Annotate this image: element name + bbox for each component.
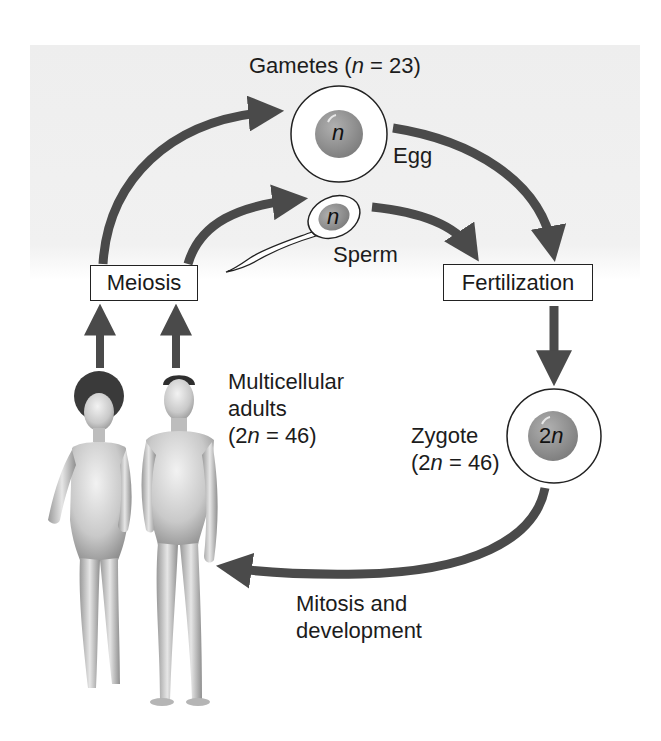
egg-nucleus-label: n <box>332 120 344 146</box>
zygote-label-line2: (2n = 46) <box>411 449 500 476</box>
life-cycle-diagram: Gametes (n = 23) n Egg n Sperm Meiosis F… <box>0 0 661 741</box>
gametes-label: Gametes (n = 23) <box>249 53 421 78</box>
adults-label-line1: Multicellular <box>228 368 344 395</box>
sperm-nucleus-label: n <box>327 204 339 230</box>
zygote-label: Zygote (2n = 46) <box>411 422 500 476</box>
mitosis-label-line1: Mitosis and <box>296 590 422 617</box>
adults-label-line2: adults <box>228 395 344 422</box>
meiosis-box: Meiosis <box>90 265 198 301</box>
sperm-label: Sperm <box>333 242 398 267</box>
gametes-label-prefix: Gametes ( <box>249 53 352 78</box>
adults-label: Multicellular adults (2n = 46) <box>228 368 344 449</box>
gametes-label-suffix: = 23) <box>364 53 421 78</box>
mitosis-label-line2: development <box>296 617 422 644</box>
meiosis-label: Meiosis <box>107 270 182 296</box>
mitosis-label: Mitosis and development <box>296 590 422 644</box>
male-adult-figure <box>142 375 218 706</box>
zygote-nucleus-label: 2n <box>539 423 564 449</box>
adults-label-line3: (2n = 46) <box>228 422 344 449</box>
fertilization-label: Fertilization <box>462 270 574 296</box>
egg-label: Egg <box>393 143 432 168</box>
gametes-label-var: n <box>352 53 364 78</box>
zygote-label-line1: Zygote <box>411 422 500 449</box>
arrow-mitosis-development <box>232 488 545 574</box>
fertilization-box: Fertilization <box>443 264 593 301</box>
female-adult-figure <box>48 371 132 688</box>
